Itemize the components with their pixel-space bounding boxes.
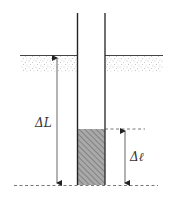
ground-right bbox=[106, 56, 163, 72]
ground-left bbox=[21, 56, 77, 72]
liquid-column bbox=[78, 129, 105, 185]
diagram-canvas: ΔL Δℓ bbox=[0, 0, 174, 202]
delta-L-label: ΔL bbox=[34, 116, 52, 130]
delta-ell-label: Δℓ bbox=[129, 150, 144, 164]
